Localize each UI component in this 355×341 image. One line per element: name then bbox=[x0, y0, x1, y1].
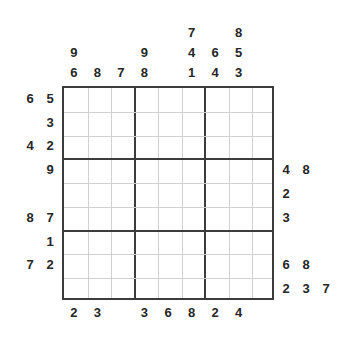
grid-block-line-vertical bbox=[134, 88, 136, 298]
grid-block-line-horizontal bbox=[64, 158, 272, 160]
bottom-clue-col7: 2 bbox=[207, 306, 223, 319]
grid-block-line-vertical bbox=[204, 88, 206, 298]
top-clue-col1: 6 bbox=[66, 66, 82, 79]
right-clue-row8: 8 bbox=[298, 258, 314, 271]
grid-line-horizontal bbox=[64, 207, 272, 208]
top-clue-col8: 5 bbox=[231, 46, 247, 59]
grid-line-horizontal bbox=[64, 183, 272, 184]
left-clue-row8: 2 bbox=[42, 258, 58, 271]
left-clue-row2: 3 bbox=[42, 116, 58, 129]
left-clues-region: 65342987172 bbox=[0, 86, 62, 300]
grid-line-vertical bbox=[252, 88, 253, 298]
left-clue-row3: 2 bbox=[42, 139, 58, 152]
right-clue-row8: 6 bbox=[278, 258, 294, 271]
top-clue-col4: 9 bbox=[136, 46, 152, 59]
bottom-clue-col5: 6 bbox=[160, 306, 176, 319]
grid-line-vertical bbox=[158, 88, 159, 298]
right-clues-region: 482368237 bbox=[274, 86, 355, 300]
left-clue-row1: 6 bbox=[22, 92, 38, 105]
grid-line-horizontal bbox=[64, 136, 272, 137]
right-clue-row4: 8 bbox=[298, 163, 314, 176]
bottom-clue-col6: 8 bbox=[184, 306, 200, 319]
right-clue-row5: 2 bbox=[278, 187, 294, 200]
grid-line-vertical bbox=[182, 88, 183, 298]
bottom-clue-col8: 4 bbox=[231, 306, 247, 319]
top-clue-col6: 1 bbox=[184, 66, 200, 79]
top-clue-col7: 4 bbox=[207, 66, 223, 79]
grid-line-vertical bbox=[88, 88, 89, 298]
top-clues-region: 96879874164853 bbox=[62, 0, 274, 86]
left-clue-row6: 7 bbox=[42, 211, 58, 224]
bottom-clue-col2: 3 bbox=[89, 306, 105, 319]
top-clue-col8: 8 bbox=[231, 26, 247, 39]
top-clue-col4: 8 bbox=[136, 66, 152, 79]
right-clue-row6: 3 bbox=[278, 211, 294, 224]
grid-line-vertical bbox=[111, 88, 112, 298]
grid-block-line-horizontal bbox=[64, 230, 272, 232]
bottom-clue-col4: 3 bbox=[136, 306, 152, 319]
left-clue-row3: 4 bbox=[22, 139, 38, 152]
top-clue-col3: 7 bbox=[113, 66, 129, 79]
grid-line-vertical bbox=[229, 88, 230, 298]
bottom-clue-col1: 2 bbox=[66, 306, 82, 319]
right-clue-row9: 7 bbox=[318, 282, 334, 295]
grid-line-horizontal bbox=[64, 254, 272, 255]
bottom-clues-region: 2336824 bbox=[62, 300, 274, 341]
top-clue-col1: 9 bbox=[66, 46, 82, 59]
grid-line-horizontal bbox=[64, 278, 272, 279]
left-clue-row8: 7 bbox=[22, 258, 38, 271]
top-clue-col7: 6 bbox=[207, 46, 223, 59]
right-clue-row9: 2 bbox=[278, 282, 294, 295]
left-clue-row7: 1 bbox=[42, 235, 58, 248]
top-clue-col8: 3 bbox=[231, 66, 247, 79]
left-clue-row1: 5 bbox=[42, 92, 58, 105]
top-clue-col6: 4 bbox=[184, 46, 200, 59]
left-clue-row4: 9 bbox=[42, 163, 58, 176]
puzzle-container: 96879874164853 65342987172 482368237 233… bbox=[0, 0, 355, 341]
right-clue-row4: 4 bbox=[278, 163, 294, 176]
left-clue-row6: 8 bbox=[22, 211, 38, 224]
right-clue-row9: 3 bbox=[298, 282, 314, 295]
grid-line-horizontal bbox=[64, 112, 272, 113]
sudoku-grid[interactable] bbox=[62, 86, 274, 300]
top-clue-col6: 7 bbox=[184, 26, 200, 39]
top-clue-col2: 8 bbox=[89, 66, 105, 79]
